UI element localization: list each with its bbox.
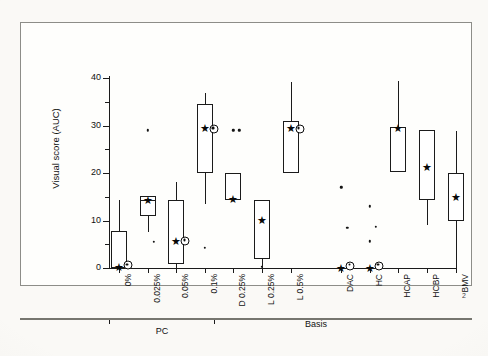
boxplot-chart: Visual score (AUC) 010203040 0%0.025%0.0…	[21, 23, 471, 285]
caption-divider	[20, 318, 472, 320]
box-plot-bmv: ★	[21, 23, 471, 285]
mean-star-marker: ★	[451, 191, 461, 202]
page-number: 2	[462, 292, 466, 299]
group-label-pc: PC	[99, 326, 225, 336]
figure-frame: Visual score (AUC) 010203040 0%0.025%0.0…	[20, 22, 472, 286]
group-label-basis: Basis	[271, 319, 362, 329]
